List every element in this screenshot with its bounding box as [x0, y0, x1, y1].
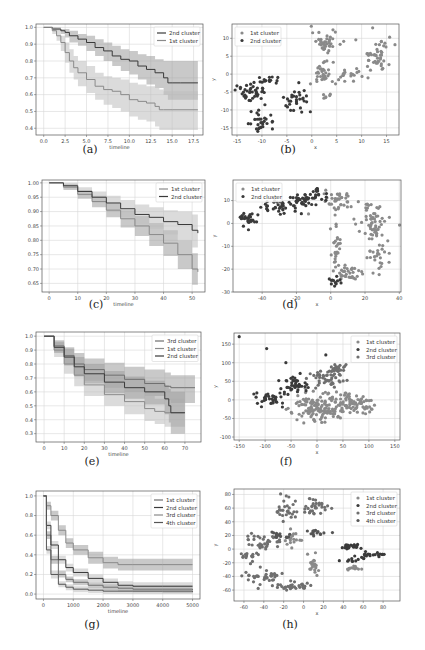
x-tick-label: -40 — [260, 604, 268, 610]
data-point — [294, 587, 297, 590]
data-point — [241, 556, 244, 559]
data-point — [246, 535, 249, 538]
data-point — [304, 505, 307, 508]
data-point — [275, 574, 278, 577]
data-point — [281, 514, 284, 517]
data-point — [354, 559, 357, 562]
data-point — [255, 552, 258, 555]
data-point — [292, 503, 295, 506]
data-point — [319, 532, 322, 535]
data-point — [308, 497, 311, 500]
data-point — [263, 578, 266, 581]
y-axis-label: y — [212, 543, 219, 546]
data-point — [284, 539, 287, 542]
data-point — [285, 513, 288, 516]
x-tick-label: 60 — [360, 604, 366, 610]
data-point — [306, 582, 309, 585]
data-point — [338, 559, 341, 562]
data-point — [289, 579, 292, 582]
data-point — [285, 543, 288, 546]
data-point — [253, 535, 256, 538]
data-point — [357, 567, 360, 570]
data-point — [297, 584, 300, 587]
y-tick-label: 40 — [225, 519, 231, 525]
data-point — [314, 506, 317, 509]
y-tick-label: 60 — [225, 505, 231, 511]
legend-entry: 3rd cluster — [366, 510, 396, 516]
data-point — [300, 539, 303, 542]
legend-entry: 4th cluster — [366, 518, 396, 524]
data-point — [347, 558, 350, 561]
data-point — [286, 504, 289, 507]
data-point — [330, 507, 333, 510]
data-point — [290, 546, 293, 549]
data-point — [368, 553, 371, 556]
data-point — [247, 543, 250, 546]
data-point — [295, 538, 298, 541]
data-point — [288, 533, 291, 536]
data-point — [301, 585, 304, 588]
data-point — [259, 565, 262, 568]
data-point — [289, 587, 292, 590]
x-tick-label: 40 — [340, 604, 346, 610]
data-point — [383, 553, 386, 556]
data-point — [311, 566, 314, 569]
data-point — [244, 556, 247, 559]
data-point — [359, 547, 362, 550]
data-point — [279, 583, 282, 586]
data-point — [311, 529, 314, 532]
data-point — [251, 555, 254, 558]
x-axis-label: x — [316, 610, 319, 616]
legend-marker-swatch — [356, 504, 359, 507]
data-point — [295, 510, 298, 513]
data-point — [346, 567, 349, 570]
data-point — [320, 505, 323, 508]
data-point — [323, 506, 326, 509]
data-point — [350, 557, 353, 560]
legend-marker-swatch — [356, 496, 359, 499]
data-point — [306, 553, 309, 556]
data-point — [279, 492, 282, 495]
data-point — [265, 573, 268, 576]
data-point — [258, 542, 261, 545]
data-point — [319, 512, 322, 515]
data-point — [322, 531, 325, 534]
data-point — [331, 531, 334, 534]
data-point — [293, 580, 296, 583]
data-point — [346, 543, 349, 546]
legend-marker-swatch — [356, 511, 359, 514]
legend: 1st cluster2nd cluster3rd cluster4th clu… — [351, 492, 398, 526]
y-tick-label: 20 — [225, 532, 231, 538]
data-point — [354, 565, 357, 568]
data-point — [247, 578, 250, 581]
data-point — [285, 536, 288, 539]
data-point — [278, 508, 281, 511]
data-point — [279, 535, 282, 538]
data-point — [271, 584, 274, 587]
data-point — [266, 541, 269, 544]
data-point — [252, 538, 255, 541]
data-point — [287, 495, 290, 498]
data-point — [377, 553, 380, 556]
x-tick-label: 20 — [320, 604, 326, 610]
data-point — [315, 574, 318, 577]
data-point — [264, 547, 267, 550]
data-point — [317, 569, 320, 572]
x-tick-label: -60 — [240, 604, 248, 610]
data-point — [310, 505, 313, 508]
chart-svg-h: -60-40-20020406080-60-40-20020406080xy1s… — [0, 0, 425, 650]
x-tick-label: -20 — [280, 604, 288, 610]
data-point — [240, 552, 243, 555]
data-point — [320, 502, 323, 505]
y-tick-label: 0 — [228, 546, 231, 552]
data-point — [251, 560, 254, 563]
data-point — [265, 569, 268, 572]
data-point — [315, 502, 318, 505]
data-point — [313, 571, 316, 574]
data-point — [247, 538, 250, 541]
legend-entry: 2nd cluster — [366, 503, 398, 509]
data-point — [315, 564, 318, 567]
data-point — [364, 553, 367, 556]
data-point — [282, 520, 285, 523]
data-point — [372, 553, 375, 556]
